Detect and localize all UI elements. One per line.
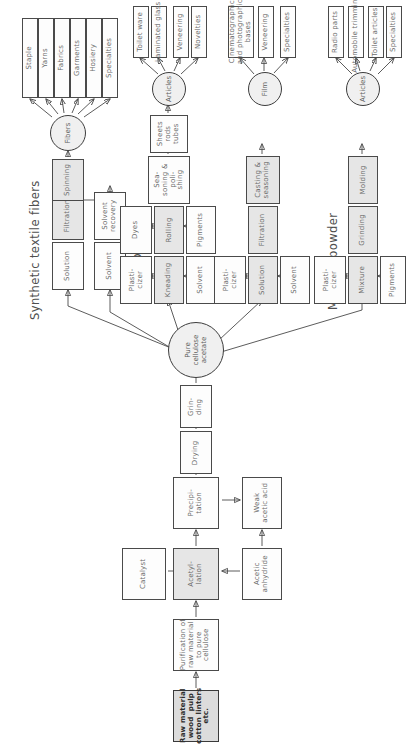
node-sheet-pigments: Pigments (186, 206, 216, 254)
hub-articles-molding: Articles (346, 72, 380, 106)
node-catalyst: Catalyst (122, 548, 166, 600)
product-veneering-sheet: Veneering (173, 6, 189, 58)
node-film-solution: Solution (248, 256, 278, 304)
node-purification: Purification of raw material to pure cel… (173, 619, 219, 671)
node-acetylation: Acetyl- lation (173, 548, 219, 600)
node-molding-mixture: Mixture (348, 256, 378, 304)
product-veneering-film: Veneering (258, 6, 274, 58)
node-acetic-anhydride: Acetic anhydride (242, 548, 282, 600)
node-raw-material: Raw material wood pulp cotton linters et… (173, 690, 219, 742)
node-sheet-solvent: Solvent (186, 256, 216, 304)
product-automobile-trimmings: Automobile trimmings (348, 6, 364, 58)
node-sheet-rolling: Rolling (154, 206, 184, 254)
product-specialties-film: Specialties (280, 6, 296, 58)
hub-film: Film (248, 72, 282, 106)
product-toilet-ware: Toilet ware (133, 6, 149, 58)
node-precipitation: Precipi- tation (173, 477, 219, 529)
product-garments: Garments (70, 18, 86, 98)
hub-fibers: Fibers (50, 115, 86, 151)
node-sheets-rods-tubes: Sheets rods tubes (150, 115, 188, 153)
node-sheet-plasticizer: Plasti- cizer (120, 256, 152, 304)
product-specialties-molding: Specialties (386, 6, 402, 58)
node-fibers-solution: Solution (52, 242, 84, 290)
product-yarns: Yarns (38, 18, 54, 98)
node-fibers-spinning: Spinning (52, 159, 84, 201)
product-novelties: Novelties (191, 6, 207, 58)
product-specialties-fibers: Specialties (102, 18, 118, 98)
product-fabrics: Fabrics (54, 18, 70, 98)
product-radio-parts: Radio parts (328, 6, 344, 58)
node-pure-cellulose-acetate: Pure cellulose acetate (168, 322, 224, 378)
product-cinematographic-photographic-bases: Cinematographic and photographic bases (228, 6, 254, 58)
product-hosiery: Hosiery (86, 18, 102, 98)
node-molding-molding: Molding (348, 156, 378, 204)
node-weak-acetic-acid: Weak acetic acid (242, 477, 282, 529)
product-staple: Staple (22, 18, 38, 98)
section-label-fibers: Synthetic textile fibers (28, 180, 42, 320)
node-drying: Drying (180, 431, 212, 474)
hub-articles-sheet: Articles (152, 72, 186, 106)
node-grinding-base: Grin- ding (180, 385, 212, 428)
node-sheet-dyes: Dyes (120, 206, 152, 254)
node-molding-grinding: Grinding (348, 206, 378, 254)
node-film-solvent: Solvent (280, 256, 310, 304)
node-sheet-seasoning-polishing: Sea- soning & poli- shing (148, 156, 190, 204)
node-molding-plasticizer: Plasti- cizer (314, 256, 346, 304)
node-molding-pigments: Pigments (380, 256, 406, 304)
node-film-casting-seasoning: Casting & seasoning (246, 156, 280, 204)
product-toilet-articles: Toilet articles (368, 6, 384, 58)
product-laminated-glass: Laminated glass (151, 6, 167, 58)
node-film-filtration: Filtration (248, 206, 278, 254)
node-film-plasticizer: Plasti- cizer (214, 256, 246, 304)
node-sheet-kneading: Kneading (154, 256, 184, 304)
process-flow-diagram: Synthetic textile fibers Sheet plastics … (0, 0, 406, 744)
